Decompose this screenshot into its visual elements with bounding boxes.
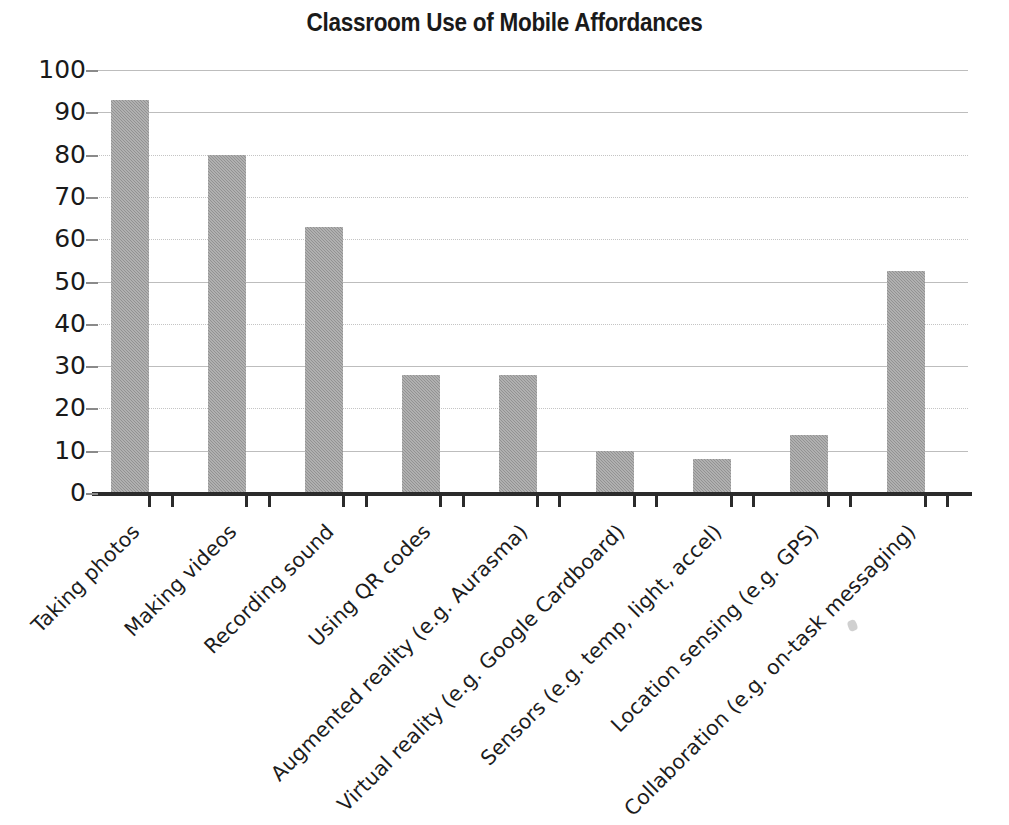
y-axis-tick-mark: [86, 493, 98, 495]
y-axis-tick-mark: [86, 197, 98, 199]
y-axis-tick-mark: [86, 239, 98, 241]
y-axis-tick-label: 30: [26, 353, 86, 378]
y-axis-tick-mark: [86, 324, 98, 326]
x-axis-tick-mark: [342, 493, 345, 507]
x-axis-tick-mark: [439, 493, 442, 507]
x-axis-tick-mark: [849, 493, 852, 507]
x-axis-tick-mark: [655, 493, 658, 507]
x-axis-tick-mark: [946, 493, 949, 507]
x-axis-tick-mark: [245, 493, 248, 507]
x-axis-line: [92, 492, 972, 496]
bar: [499, 375, 537, 493]
y-axis-tick-label: 0: [26, 480, 86, 505]
x-axis-tick-mark: [462, 493, 465, 507]
bar: [693, 459, 731, 493]
bar: [402, 375, 440, 493]
scan-artifact: [846, 619, 858, 632]
x-axis-tick-mark: [171, 493, 174, 507]
y-axis-tick-mark: [86, 112, 98, 114]
y-axis-tick-mark: [86, 451, 98, 453]
x-axis-tick-mark: [148, 493, 151, 507]
x-axis-tick-mark: [536, 493, 539, 507]
y-axis-tick-mark: [86, 408, 98, 410]
bar: [305, 227, 343, 493]
x-axis-tick-mark: [924, 493, 927, 507]
y-axis-tick-label: 10: [26, 438, 86, 463]
x-axis-tick-mark: [730, 493, 733, 507]
y-axis-tick-label: 40: [26, 311, 86, 336]
y-axis-tick-mark: [86, 70, 98, 72]
x-axis-tick-mark: [633, 493, 636, 507]
y-axis-tick-label: 70: [26, 184, 86, 209]
y-axis-tick-label: 60: [26, 226, 86, 251]
bar: [111, 100, 149, 493]
y-axis-tick-mark: [86, 282, 98, 284]
y-axis-tick-label: 20: [26, 395, 86, 420]
chart-title: Classroom Use of Mobile Affordances: [50, 8, 958, 37]
bar: [596, 451, 634, 493]
y-axis-tick-label: 50: [26, 269, 86, 294]
gridline: [96, 112, 968, 113]
gridline: [96, 70, 968, 71]
bar: [790, 435, 828, 493]
x-axis-tick-mark: [752, 493, 755, 507]
x-axis-tick-mark: [827, 493, 830, 507]
y-axis-tick-label: 80: [26, 142, 86, 167]
bar: [887, 271, 925, 493]
y-axis-tick-label: 90: [26, 99, 86, 124]
x-axis-tick-mark: [268, 493, 271, 507]
bar-chart: Classroom Use of Mobile Affordances 0102…: [0, 0, 1009, 825]
y-axis-tick-mark: [86, 155, 98, 157]
bar: [208, 155, 246, 493]
plot-area: [96, 70, 968, 493]
y-axis-tick-label: 100: [26, 57, 86, 82]
y-axis-tick-mark: [86, 366, 98, 368]
x-axis-tick-mark: [365, 493, 368, 507]
x-axis-tick-mark: [558, 493, 561, 507]
